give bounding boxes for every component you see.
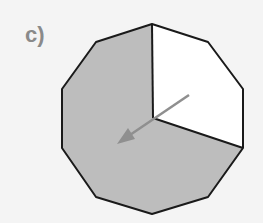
- decagon-figure: [0, 0, 263, 223]
- radius-top: [152, 24, 153, 118]
